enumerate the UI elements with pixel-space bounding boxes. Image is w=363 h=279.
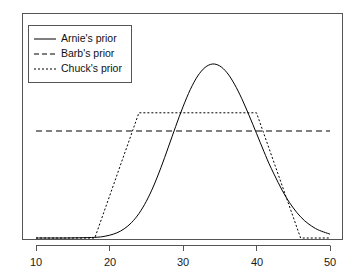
plot-svg: 10 20 30 40 50 Arnie's prior Barb's prio…	[0, 0, 363, 279]
series-arnie-prior-line	[36, 64, 330, 238]
x-tick-label-2: 30	[177, 256, 189, 268]
x-axis-tick-labels: 10 20 30 40 50	[30, 256, 336, 268]
x-axis: 10 20 30 40 50	[30, 246, 336, 269]
x-tick-label-1: 20	[104, 256, 116, 268]
legend-label-arnie: Arnie's prior	[61, 32, 117, 44]
x-tick-label-0: 10	[30, 256, 42, 268]
x-axis-ticks	[37, 246, 331, 252]
series-group	[36, 64, 330, 238]
legend-label-chuck: Chuck's prior	[61, 62, 122, 74]
x-tick-label-3: 40	[251, 256, 263, 268]
x-tick-label-4: 50	[324, 256, 336, 268]
legend: Arnie's prior Barb's prior Chuck's prior	[29, 26, 132, 83]
legend-label-barb: Barb's prior	[61, 47, 115, 59]
chart-container: 10 20 30 40 50 Arnie's prior Barb's prio…	[0, 0, 363, 279]
series-chuck-prior-line	[36, 113, 330, 238]
